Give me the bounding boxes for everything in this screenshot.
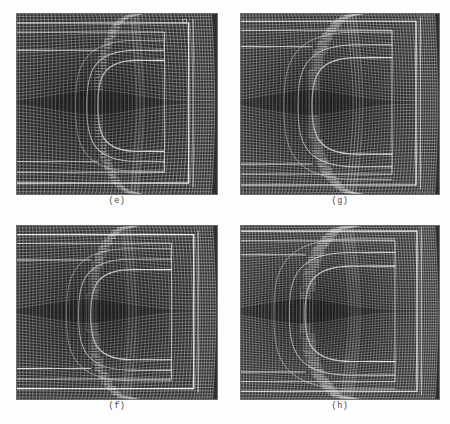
panel-g-feature-lines <box>241 18 420 189</box>
panel-f-plot <box>16 225 218 400</box>
panel-f-mesh-lines <box>17 226 216 400</box>
panel-e-mesh-lines <box>17 14 215 195</box>
panel-g-plot <box>240 13 440 195</box>
panel-e-plot <box>16 13 218 195</box>
panel-h-plot <box>240 225 440 400</box>
panel-e-caption: (e) <box>16 196 218 206</box>
panel-h-caption: (h) <box>240 401 440 411</box>
figure-root: (e)(g)(f)(h) <box>0 0 450 424</box>
panel-g <box>240 13 440 195</box>
panel-h <box>240 225 440 400</box>
panel-f-feature-lines <box>17 231 198 392</box>
panel-g-mesh-lines <box>241 14 438 195</box>
panel-e-feature-lines <box>17 19 193 186</box>
panel-g-mesh <box>240 13 440 195</box>
panel-h-mesh <box>240 225 440 400</box>
panel-f <box>16 225 218 400</box>
panel-e <box>16 13 218 195</box>
panel-g-caption: (g) <box>240 196 440 206</box>
panel-f-mesh <box>16 225 218 400</box>
panel-h-mesh-lines <box>241 226 438 400</box>
panel-f-caption: (f) <box>16 401 218 411</box>
panel-e-mesh <box>16 13 218 195</box>
